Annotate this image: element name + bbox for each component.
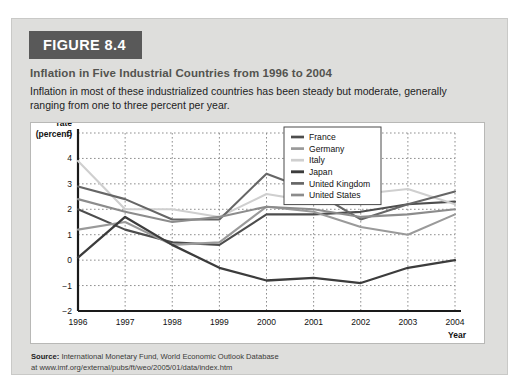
y-tick-label: 1 bbox=[67, 230, 72, 240]
figure-card: FIGURE 8.4 Inflation in Five Industrial … bbox=[11, 18, 508, 375]
source-line-2: at www.imf.org/external/pubs/ft/weo/2005… bbox=[31, 363, 232, 372]
legend-label-united-kingdom: United Kingdom bbox=[309, 179, 370, 189]
x-axis-title: Year bbox=[448, 330, 467, 340]
source-label: Source: bbox=[31, 352, 59, 361]
x-tick-label: 2002 bbox=[351, 317, 370, 327]
legend-label-germany: Germany bbox=[309, 144, 345, 154]
x-tick-label: 2000 bbox=[257, 317, 276, 327]
chart-ytick-labels: 543210−1−2 bbox=[62, 128, 72, 316]
series-line-united-kingdom bbox=[78, 174, 455, 220]
y-tick-label: 0 bbox=[67, 255, 72, 265]
source-note: Source: International Monetary Fund, Wor… bbox=[31, 352, 461, 373]
y-axis-title-line: (percent) bbox=[36, 129, 73, 139]
inflation-line-chart: 543210−1−2 19961997199819992000200120022… bbox=[31, 123, 484, 343]
figure-badge: FIGURE 8.4 bbox=[29, 31, 142, 59]
y-tick-label: 4 bbox=[67, 153, 72, 163]
x-tick-label: 2001 bbox=[304, 317, 323, 327]
x-tick-label: 2004 bbox=[446, 317, 465, 327]
source-line-1: International Monetary Fund, World Econo… bbox=[59, 352, 278, 361]
legend-label-france: France bbox=[309, 132, 336, 142]
y-tick-label: −1 bbox=[62, 281, 72, 291]
x-tick-label: 1999 bbox=[210, 317, 229, 327]
legend-label-italy: Italy bbox=[309, 155, 325, 165]
figure-subtitle: Inflation in most of these industrialize… bbox=[30, 84, 470, 112]
x-tick-label: 1998 bbox=[163, 317, 182, 327]
y-axis-title-line: rate bbox=[56, 123, 72, 128]
y-tick-label: 3 bbox=[67, 179, 72, 189]
y-tick-label: −2 bbox=[62, 306, 72, 316]
figure-title: Inflation in Five Industrial Countries f… bbox=[30, 67, 332, 79]
chart-plot-panel: 543210−1−2 19961997199819992000200120022… bbox=[30, 122, 485, 344]
x-tick-label: 2003 bbox=[398, 317, 417, 327]
x-tick-label: 1997 bbox=[116, 317, 135, 327]
x-tick-label: 1996 bbox=[69, 317, 88, 327]
legend-label-japan: Japan bbox=[309, 167, 333, 177]
y-tick-label: 2 bbox=[67, 204, 72, 214]
chart-x-axis-title: Year bbox=[448, 330, 467, 340]
chart-legend: FranceGermanyItalyJapanUnited KingdomUni… bbox=[284, 127, 381, 205]
chart-axes bbox=[78, 129, 461, 311]
chart-xtick-labels: 199619971998199920002001200220032004 bbox=[69, 317, 465, 327]
chart-y-axis-title: Inflationrate(percent) bbox=[36, 123, 73, 139]
legend-label-united-states: United States bbox=[309, 190, 361, 200]
